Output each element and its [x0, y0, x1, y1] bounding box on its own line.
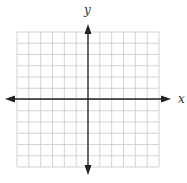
x-axis-left-arrow-icon: [5, 96, 15, 103]
y-axis-up-arrow-icon: [85, 24, 92, 34]
y-axis-label: y: [83, 3, 91, 17]
coordinate-plane: x y: [0, 0, 187, 183]
x-axis-right-arrow-icon: [161, 96, 171, 103]
x-axis-label: x: [178, 92, 185, 106]
y-axis-down-arrow-icon: [85, 165, 92, 175]
